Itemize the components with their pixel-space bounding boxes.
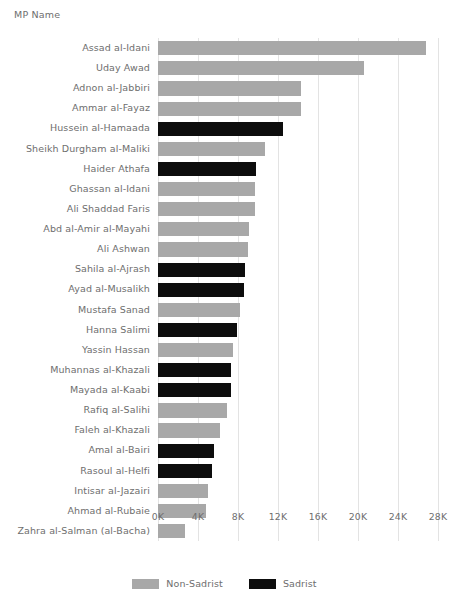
bar[interactable] [158,343,233,357]
category-label: Hanna Salimi [86,320,150,340]
bar[interactable] [158,102,301,116]
legend-swatch-icon [249,579,276,589]
category-label: Ammar al-Fayaz [72,98,150,118]
bar-row: Ali Shaddad Faris [158,199,438,219]
category-label: Ayad al-Musalikh [68,279,150,299]
bar-row: Zahra al-Salman (al-Bacha) [158,521,438,541]
bar[interactable] [158,283,244,297]
bar-row: Haider Athafa [158,159,438,179]
bar-rows: Assad al-IdaniUday AwadAdnon al-JabbiriA… [158,38,438,541]
bar-row: Rasoul al-Helfi [158,461,438,481]
bar-row: Hussein al-Hamaada [158,118,438,138]
category-label: Haider Athafa [83,159,150,179]
bar-row: Abd al-Amir al-Mayahi [158,219,438,239]
category-label: Faleh al-Khazali [74,420,150,440]
bar-row: Muhannas al-Khazali [158,360,438,380]
bar[interactable] [158,162,256,176]
bar[interactable] [158,81,301,95]
x-tick-label: 24K [389,511,408,522]
x-tick-label: 4K [192,511,204,522]
category-label: Muhannas al-Khazali [50,360,150,380]
category-label: Ali Shaddad Faris [67,199,150,219]
y-axis-title: MP Name [14,9,60,20]
bar-row: Rafiq al-Salihi [158,400,438,420]
category-label: Mustafa Sanad [78,300,150,320]
x-tick-label: 16K [309,511,328,522]
category-label: Hussein al-Hamaada [50,118,150,138]
category-label: Uday Awad [96,58,150,78]
x-tick-label: 28K [429,511,448,522]
x-tick-label: 8K [232,511,244,522]
bar[interactable] [158,464,212,478]
legend-label: Sadrist [283,578,317,589]
category-label: Rafiq al-Salihi [84,400,150,420]
bar[interactable] [158,383,231,397]
bar-row: Intisar al-Jazairi [158,481,438,501]
category-label: Yassin Hassan [82,340,150,360]
bar[interactable] [158,41,426,55]
bar[interactable] [158,61,364,75]
chart-legend: Non-SadristSadrist [0,578,449,589]
bar-row: Adnon al-Jabbiri [158,78,438,98]
bar[interactable] [158,444,214,458]
legend-label: Non-Sadrist [166,578,223,589]
gridline [438,38,439,541]
bar-row: Hanna Salimi [158,320,438,340]
bar-row: Yassin Hassan [158,340,438,360]
bar-row: Ammar al-Fayaz [158,98,438,118]
bar-row: Ali Ashwan [158,239,438,259]
legend-item[interactable]: Sadrist [249,578,317,589]
category-label: Adnon al-Jabbiri [73,78,150,98]
bar-row: Mayada al-Kaabi [158,380,438,400]
bar-row: Sheikh Durgham al-Maliki [158,139,438,159]
bar[interactable] [158,263,245,277]
plot-area: Assad al-IdaniUday AwadAdnon al-JabbiriA… [158,38,438,541]
bar-row: Ayad al-Musalikh [158,279,438,299]
x-tick-label: 12K [269,511,288,522]
bar[interactable] [158,403,227,417]
x-tick-label: 0K [152,511,164,522]
category-label: Ghassan al-Idani [69,179,150,199]
bar[interactable] [158,484,208,498]
bar[interactable] [158,303,240,317]
category-label: Abd al-Amir al-Mayahi [43,219,150,239]
bar[interactable] [158,363,231,377]
category-label: Amal al-Bairi [88,440,150,460]
bar-row: Uday Awad [158,58,438,78]
bar-row: Mustafa Sanad [158,300,438,320]
legend-item[interactable]: Non-Sadrist [132,578,223,589]
bar-row: Amal al-Bairi [158,440,438,460]
bar[interactable] [158,142,265,156]
bar[interactable] [158,182,255,196]
bar-row: Ghassan al-Idani [158,179,438,199]
bar-row: Assad al-Idani [158,38,438,58]
bar[interactable] [158,222,249,236]
legend-swatch-icon [132,579,159,589]
x-tick-label: 20K [349,511,368,522]
category-label: Sahila al-Ajrash [75,259,150,279]
category-label: Assad al-Idani [82,38,150,58]
bar-chart: MP Name Assad al-IdaniUday AwadAdnon al-… [0,0,449,603]
category-label: Ali Ashwan [97,239,150,259]
bar-row: Faleh al-Khazali [158,420,438,440]
bar-row: Sahila al-Ajrash [158,259,438,279]
category-label: Zahra al-Salman (al-Bacha) [17,521,150,541]
category-label: Rasoul al-Helfi [80,461,150,481]
bar[interactable] [158,202,255,216]
category-label: Mayada al-Kaabi [70,380,150,400]
category-label: Ahmad al-Rubaie [67,501,150,521]
category-label: Sheikh Durgham al-Maliki [26,139,150,159]
bar[interactable] [158,122,283,136]
bar[interactable] [158,242,248,256]
bar[interactable] [158,423,220,437]
category-label: Intisar al-Jazairi [74,481,150,501]
bar[interactable] [158,323,237,337]
bar[interactable] [158,524,185,538]
